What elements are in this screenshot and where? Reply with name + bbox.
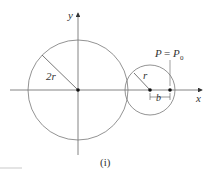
small-radius-line [134, 73, 150, 90]
small-center-dot [148, 88, 152, 92]
point-label-p: P [154, 47, 162, 59]
point-label: P = P 0 [154, 47, 184, 62]
figure-caption: (i) [100, 156, 111, 169]
x-axis-label: x [195, 92, 201, 104]
y-axis-label: y [67, 9, 73, 21]
diagram-canvas: y x 2r r b P = P 0 (i) [0, 0, 208, 174]
small-radius-label: r [143, 69, 148, 81]
large-center-dot [76, 88, 80, 92]
point-label-p0-subscript: 0 [180, 54, 184, 62]
large-radius-label: 2r [46, 70, 57, 82]
point-label-equals: = [164, 47, 170, 59]
offset-b-label: b [156, 92, 161, 103]
point-p-dot [168, 88, 172, 92]
point-label-p0: P [172, 47, 180, 59]
